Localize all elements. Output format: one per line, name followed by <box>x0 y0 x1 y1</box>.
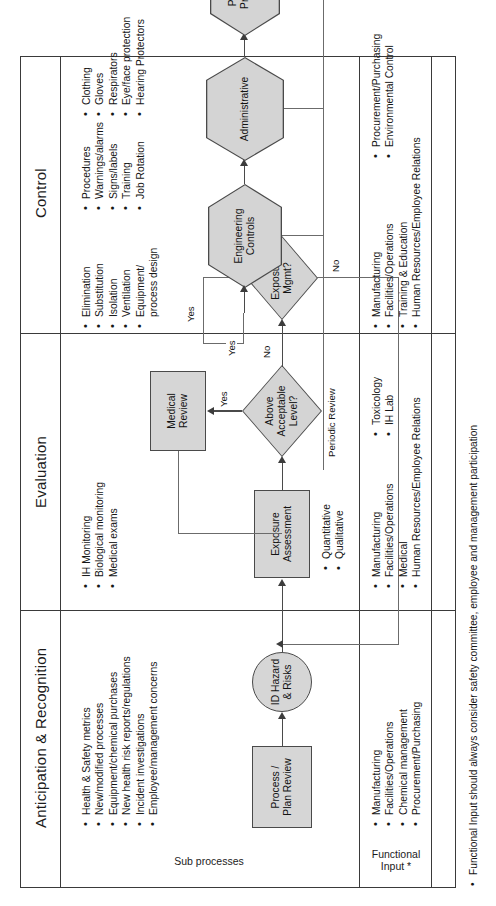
list-item: New/modified processes <box>93 656 106 826</box>
node-medical-review-line1: Medical <box>166 393 178 428</box>
row-label-functional-input: Functional Input * <box>336 848 456 872</box>
list-item: Procedures <box>80 122 93 210</box>
edge-label-no-loopback: No <box>330 259 341 273</box>
evaluation-sub-bullets: Quantitative Qualitative <box>320 504 347 570</box>
connector-acceptable-to-medical <box>214 410 242 411</box>
connector-tap-administrative <box>284 108 324 109</box>
control-bullets-col3: Clothing Gloves Respirators Eye/face pro… <box>80 17 147 116</box>
edge-label-yes-engineering: Yes <box>226 339 237 357</box>
list-item: Chemical management <box>397 702 410 826</box>
node-process-plan-review-line2: Plan Review <box>282 758 294 815</box>
list-item: Job Rotation <box>134 122 147 210</box>
list-item: Equipment/chemical purchases <box>107 656 120 826</box>
node-exposure-mgmt-line2: Mgmt? <box>282 262 294 293</box>
list-item: Human Resources/Employee Relations <box>410 397 423 588</box>
connector-process-to-idhazard <box>282 718 283 746</box>
header-anticipation: Anticipation & Recognition <box>32 648 49 828</box>
list-item: Procurement/Purchasing <box>410 702 423 826</box>
list-item: IH Monitoring <box>80 482 93 588</box>
connector-administrative-to-ppe <box>244 37 245 57</box>
arrowhead-idhazard-to-exposure-assessment <box>278 579 286 586</box>
control-bullets-col2: Procedures Warnings/alarms Signs/labels … <box>80 122 147 210</box>
footnote: Functional Input should always consider … <box>468 425 479 886</box>
connector-medical-feedback-h <box>178 451 179 534</box>
control-functional-input-col1: Manufacturing Facilities/Operations Trai… <box>370 137 424 328</box>
connector-exposuremgmt-yes-join <box>203 343 243 344</box>
list-item: Isolation <box>107 248 120 328</box>
anticipation-bullets: Health & Safety metrics New/modified pro… <box>80 656 160 826</box>
diagram-canvas: Anticipation & Recognition Evaluation Co… <box>0 0 496 906</box>
edge-label-no-to-exposuremgmt: No <box>261 345 272 359</box>
evaluation-bullets: IH Monitoring Biological monitoring Medi… <box>80 482 120 588</box>
list-item: Employee/management concerns <box>147 656 160 826</box>
list-item: Medical <box>397 397 410 588</box>
list-item: Training <box>120 122 133 210</box>
list-item: Qualitative <box>333 504 346 570</box>
node-above-acceptable-line2: Acceptable <box>276 386 288 437</box>
list-item: Warnings/alarms <box>93 122 106 210</box>
connector-yes-path-h <box>243 313 244 344</box>
control-bullets-col1: Elimination Substitution Isolation Venti… <box>80 248 160 328</box>
list-item: Incident investigations <box>134 656 147 826</box>
arrowhead-process-to-idhazard <box>278 712 286 719</box>
footnote-text: Functional Input should always consider … <box>468 425 479 886</box>
node-id-hazard-line1: ID Hazard <box>270 659 282 705</box>
node-id-hazard-line2: & Risks <box>282 665 294 700</box>
node-process-plan-review[interactable]: Process / Plan Review <box>252 746 312 828</box>
row-label-functional-line2: Input * <box>336 860 456 872</box>
list-item: Biological monitoring <box>93 482 106 588</box>
list-item: IH Lab <box>383 377 396 436</box>
list-item: Environmental Control <box>383 34 396 158</box>
list-item: Toxicology <box>370 377 383 436</box>
connector-acceptable-to-exposuremgmt <box>282 325 283 367</box>
node-ppe-line1: Personal <box>227 0 239 6</box>
list-item: Human Resources/Employee Relations <box>410 137 423 328</box>
connector-loopback-v <box>282 644 399 645</box>
header-control: Control <box>32 168 49 218</box>
connector-medical-feedback-v <box>178 533 282 534</box>
row-label-sub-processes: Sub processes <box>149 855 269 867</box>
arrowhead-into-engineering <box>240 285 248 292</box>
node-personal-protective-equip[interactable]: Personal Protective Equip <box>211 0 278 35</box>
node-exposure-assessment-line1: Exposure <box>270 512 282 556</box>
list-item: Facilities/Operations <box>383 137 396 328</box>
node-exposure-assessment-line2: Assessment <box>282 506 294 562</box>
list-item: Gloves <box>93 17 106 116</box>
node-process-plan-review-line1: Process / <box>270 766 282 809</box>
node-medical-review[interactable]: Medical Review <box>150 371 206 451</box>
node-exposure-assessment[interactable]: Exposure Assessment <box>254 490 310 578</box>
list-item: Health & Safety metrics <box>80 656 93 826</box>
node-id-hazard-risks[interactable]: ID Hazard & Risks <box>252 652 312 712</box>
node-ppe-line2: Protective <box>239 0 251 9</box>
arrowhead-assessment-to-acceptable <box>278 456 286 463</box>
node-administrative-label: Administrative <box>239 77 251 142</box>
list-item: process design <box>147 248 160 328</box>
node-medical-review-line2: Review <box>178 394 190 428</box>
list-item: Manufacturing <box>370 702 383 826</box>
header-evaluation: Evaluation <box>32 436 49 508</box>
edge-label-periodic-review: Periodic Review <box>326 387 337 458</box>
arrowhead-acceptable-to-medical <box>207 408 214 416</box>
anticipation-functional-input: Manufacturing Facilities/Operations Chem… <box>370 702 424 826</box>
node-above-acceptable-line3: Level? <box>288 396 300 426</box>
connector-assessment-to-acceptable <box>282 462 283 490</box>
divider-header-row <box>60 56 61 888</box>
list-item: Quantitative <box>320 504 333 570</box>
divider-functional-label-row <box>431 56 432 888</box>
list-item: Manufacturing <box>370 137 383 328</box>
node-engineering-controls-line2: Controls <box>245 217 257 255</box>
connector-tap-engineering <box>282 235 324 236</box>
arrowhead-acceptable-to-exposuremgmt <box>278 319 286 326</box>
list-item: Hearing Protectors <box>134 17 147 116</box>
evaluation-functional-input-col2: Toxicology IH Lab <box>370 377 397 436</box>
list-item: New health risk reports/regulations <box>120 656 133 826</box>
list-item: Ventilation <box>120 248 133 328</box>
list-item: Signs/labels <box>107 122 120 210</box>
diagram-sheet: Anticipation & Recognition Evaluation Co… <box>20 20 476 888</box>
list-item: Facilities/Operations <box>383 702 396 826</box>
list-item: Eye/face protection <box>120 17 133 116</box>
list-item: Clothing <box>80 17 93 116</box>
list-item: Elimination <box>80 248 93 328</box>
divider-anticipation-evaluation <box>20 610 456 611</box>
control-functional-input-col2: Procurement/Purchasing Environmental Con… <box>370 34 397 158</box>
